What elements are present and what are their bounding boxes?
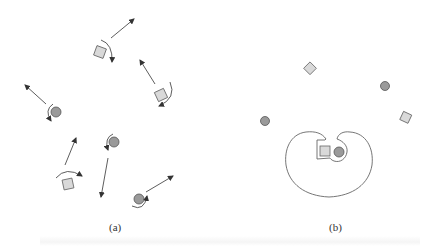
figure-canvas	[0, 0, 436, 249]
enclosed-circle	[334, 147, 344, 157]
panel-a-label: (a)	[109, 221, 121, 233]
panel-b	[261, 62, 412, 197]
diamond-object-2	[400, 111, 412, 123]
square-object-1	[94, 19, 134, 62]
diamond-object-1	[304, 62, 317, 75]
rotation-arrow-icon	[56, 171, 82, 178]
circle-object-2	[101, 134, 119, 197]
square-object-3	[56, 138, 82, 190]
translation-arrow-icon	[25, 85, 46, 104]
panel-a	[25, 19, 173, 208]
translation-arrow-icon	[101, 158, 108, 197]
circle-object-5	[261, 117, 270, 126]
translation-arrow-icon	[146, 176, 173, 192]
square-object-2	[140, 60, 172, 106]
enclosed-square	[320, 146, 330, 156]
translation-arrow-icon	[111, 19, 134, 38]
grasp-enclosure	[286, 132, 373, 197]
translation-arrow-icon	[140, 60, 155, 84]
circle-object-1	[25, 85, 61, 121]
translation-arrow-icon	[65, 138, 76, 165]
scan-artifact	[40, 236, 420, 246]
panel-b-label: (b)	[329, 221, 342, 233]
circle-object-4	[381, 82, 390, 91]
circle-object-3	[132, 176, 173, 208]
